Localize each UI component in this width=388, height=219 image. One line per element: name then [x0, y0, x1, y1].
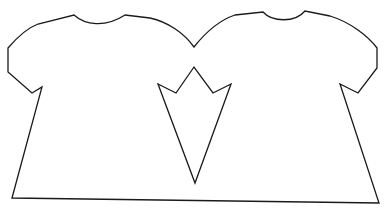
shirts-drawing [0, 0, 388, 219]
